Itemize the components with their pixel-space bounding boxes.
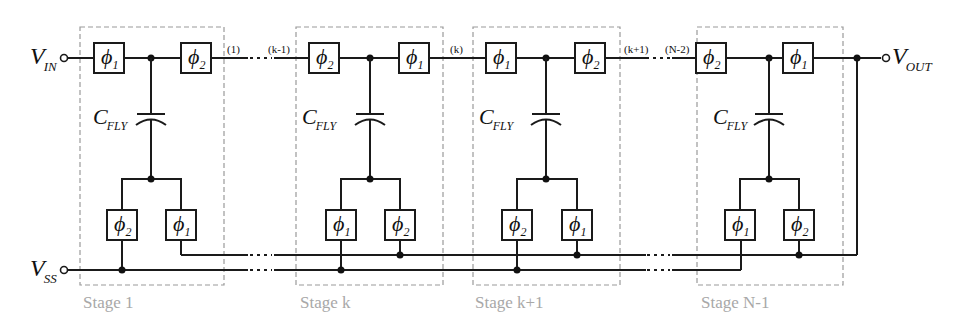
stage-2: ϕ2ϕ1CFLYϕ1ϕ2 [302,43,429,274]
switch-bottom-right: ϕ1 [562,210,592,240]
switch-top-right: ϕ2 [181,43,211,73]
switch-top-right: ϕ1 [399,43,429,73]
switch-top-left: ϕ1 [486,43,516,73]
switch-top-left: ϕ2 [309,43,339,73]
switch-bottom-right: ϕ1 [166,210,196,240]
vss-label: VSS [30,255,57,286]
stage-k1-label: Stage k+1 [475,293,544,312]
vout-label: VOUT [892,43,932,74]
branch-node-dot [543,176,550,183]
cfly-label: CFLY [93,104,128,133]
switch-bottom-left: ϕ2 [107,210,137,240]
stages: ϕ1ϕ2CFLYϕ2ϕ1ϕ2ϕ1CFLYϕ1ϕ2ϕ1ϕ2CFLYϕ2ϕ1ϕ2ϕ1… [93,43,814,274]
node-label-k-1: (k-1) [268,43,290,56]
stage-4: ϕ2ϕ1CFLYϕ1ϕ2 [696,43,814,259]
branch-node-dot [148,176,155,183]
vin-terminal [61,55,68,62]
cfly-label: CFLY [713,104,748,133]
stage-3: ϕ1ϕ2CFLYϕ2ϕ1 [479,43,605,274]
node-label-k: (k) [450,43,463,56]
switch-bottom-left: ϕ1 [725,210,755,240]
switch-bottom-left: ϕ1 [326,210,356,240]
node-label-1: (1) [227,43,240,56]
stage-1-label: Stage 1 [83,293,134,312]
stage-k-label: Stage k [300,293,351,312]
switch-top-left: ϕ2 [696,43,726,73]
vin-label: VIN [30,43,58,74]
cfly-label: CFLY [302,104,337,133]
stage-n1-label: Stage N-1 [701,293,769,312]
node-label-k+1: (k+1) [624,43,649,56]
switch-top-left: ϕ1 [94,43,124,73]
vout-junction [854,55,861,62]
switch-top-right: ϕ2 [575,43,605,73]
branch-node-dot [367,176,374,183]
circuit-diagram: ϕ1ϕ2CFLYϕ2ϕ1ϕ2ϕ1CFLYϕ1ϕ2ϕ1ϕ2CFLYϕ2ϕ1ϕ2ϕ1… [0,0,958,332]
cfly-label: CFLY [479,104,514,133]
vss-terminal [61,267,68,274]
switch-top-right: ϕ1 [783,43,813,73]
switch-bottom-left: ϕ2 [502,210,532,240]
node-label-n-2: (N-2) [665,43,690,56]
stage-1: ϕ1ϕ2CFLYϕ2ϕ1 [93,43,211,274]
vout-terminal [883,55,890,62]
switch-bottom-right: ϕ2 [784,210,814,240]
branch-node-dot [766,176,773,183]
switch-bottom-right: ϕ2 [385,210,415,240]
